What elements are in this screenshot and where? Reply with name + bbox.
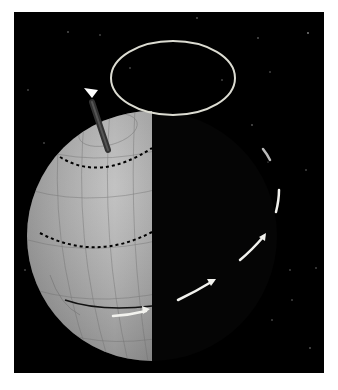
precession-illustration	[0, 0, 338, 390]
